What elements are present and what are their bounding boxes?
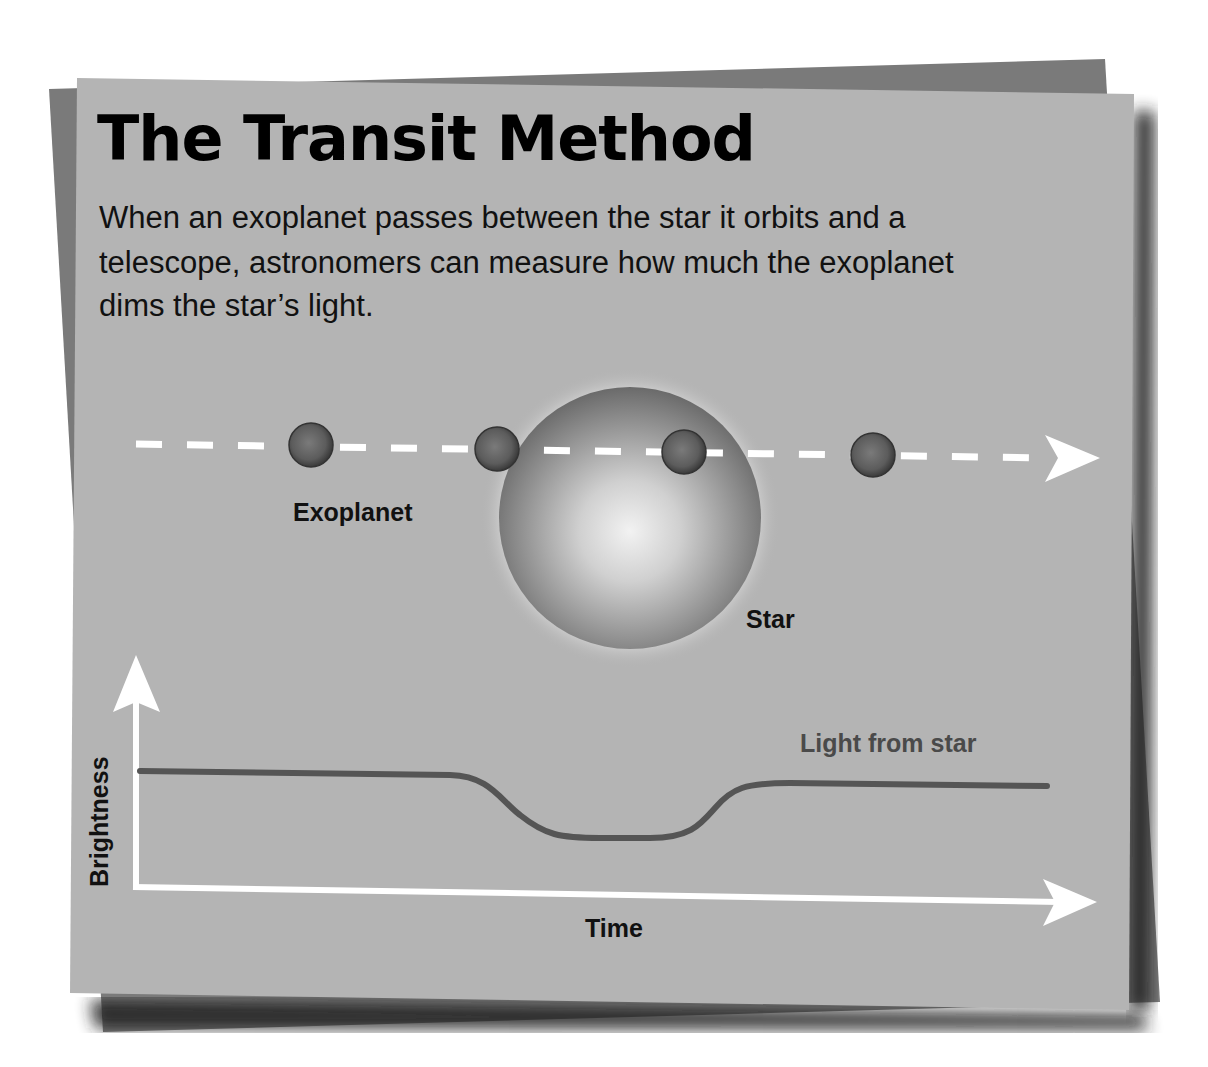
page-title: The Transit Method [97, 102, 755, 175]
exoplanet-icon-4 [851, 433, 895, 477]
transit-method-infographic: The Transit Method When an exoplanet pas… [0, 0, 1208, 1067]
exoplanet-icon-3 [662, 430, 706, 474]
star-icon [499, 387, 761, 649]
x-axis-label: Time [585, 914, 643, 942]
star-label: Star [746, 605, 795, 633]
exoplanet-icon-1 [289, 423, 333, 467]
exoplanet-icon-2 [475, 427, 519, 471]
y-axis-label: Brightness [85, 756, 113, 887]
description-line-1: When an exoplanet passes between the sta… [99, 200, 906, 235]
description-line-3: dims the star’s light. [99, 288, 374, 323]
curve-label: Light from star [800, 729, 977, 757]
description-line-2: telescope, astronomers can measure how m… [99, 245, 954, 280]
exoplanet-label: Exoplanet [293, 498, 413, 526]
